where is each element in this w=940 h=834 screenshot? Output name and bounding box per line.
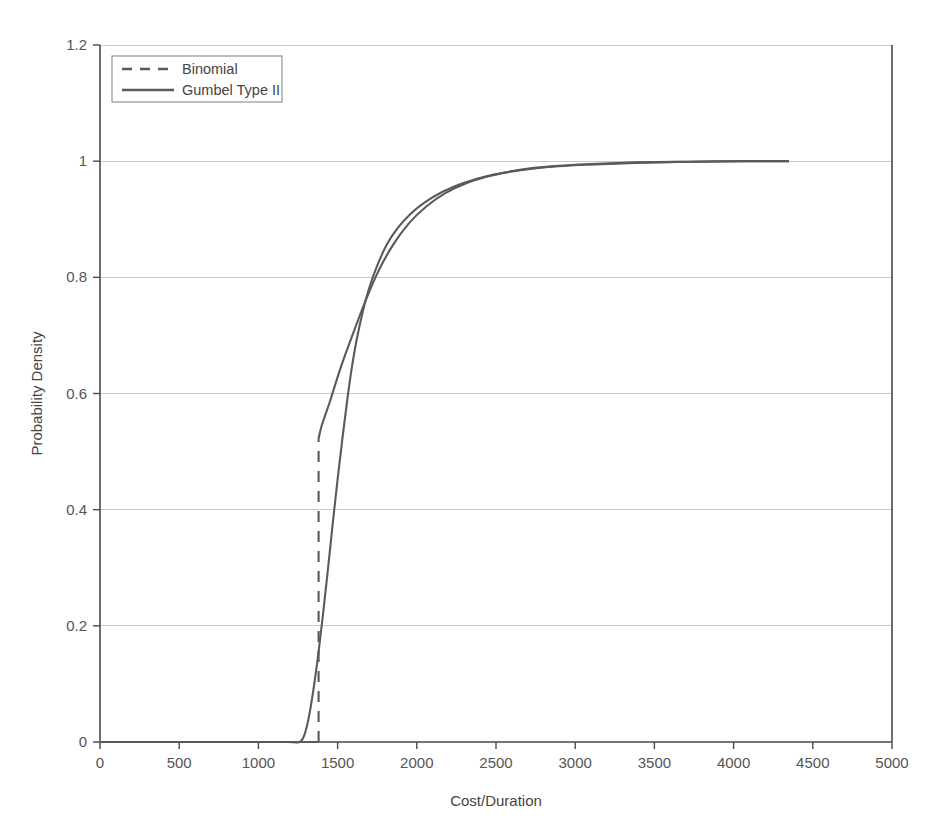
x-tick-label: 3000 <box>559 754 592 771</box>
legend-label: Gumbel Type II <box>182 82 280 98</box>
x-tick-label: 1500 <box>321 754 354 771</box>
legend-label: Binomial <box>182 61 238 77</box>
x-tick-label: 2000 <box>400 754 433 771</box>
x-tick-label: 1000 <box>242 754 275 771</box>
probability-density-chart: 00.20.40.60.811.2 0500100015002000250030… <box>0 0 940 834</box>
x-tick-label: 500 <box>167 754 192 771</box>
y-tick-label: 1 <box>79 152 87 169</box>
x-tick-label: 0 <box>96 754 104 771</box>
x-tick-label: 4000 <box>717 754 750 771</box>
y-tick-label: 0.2 <box>66 617 87 634</box>
y-tick-label: 0 <box>79 733 87 750</box>
series-line-0-tail <box>319 161 789 440</box>
x-tick-label: 2500 <box>479 754 512 771</box>
y-tick-label: 1.2 <box>66 36 87 53</box>
y-tick-label: 0.8 <box>66 268 87 285</box>
x-tick-label: 3500 <box>638 754 671 771</box>
x-tick-label: 5000 <box>875 754 908 771</box>
y-tick-label: 0.6 <box>66 385 87 402</box>
x-tick-label: 4500 <box>796 754 829 771</box>
y-axis-title: Probability Density <box>28 331 45 456</box>
series-lines <box>100 161 789 742</box>
gridlines <box>100 45 892 626</box>
y-axis-ticks: 00.20.40.60.811.2 <box>66 36 100 750</box>
x-axis-title: Cost/Duration <box>450 792 542 809</box>
x-axis-ticks: 0500100015002000250030003500400045005000 <box>96 742 909 771</box>
y-tick-label: 0.4 <box>66 501 87 518</box>
chart-legend: BinomialGumbel Type II <box>112 56 282 102</box>
series-line-1 <box>100 161 789 742</box>
chart-figure: 00.20.40.60.811.2 0500100015002000250030… <box>0 0 940 834</box>
